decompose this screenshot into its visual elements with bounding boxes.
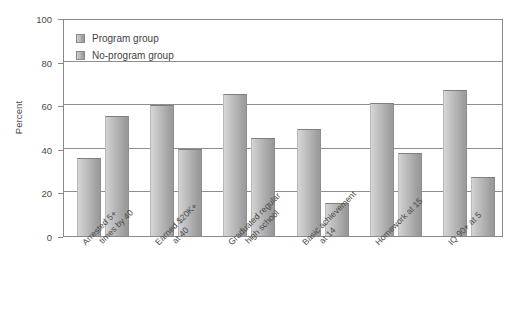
- legend-item-no-program-group: No-program group: [76, 47, 174, 63]
- x-axis-labels: Arrested 5+times by 40Earned $20K+at 40G…: [63, 240, 503, 335]
- y-tick-label: 80: [22, 57, 52, 68]
- y-tick-label: 60: [22, 101, 52, 112]
- bar: [150, 105, 174, 236]
- y-tick-mark: [58, 237, 63, 238]
- bar: [223, 94, 247, 236]
- y-tick-label: 100: [22, 14, 52, 25]
- y-tick-label: 20: [22, 188, 52, 199]
- legend: Program group No-program group: [76, 30, 174, 64]
- bar: [297, 129, 321, 236]
- y-tick-label: 0: [22, 232, 52, 243]
- bar: [443, 90, 467, 236]
- legend-swatch-icon: [76, 51, 85, 60]
- bar-chart: Percent 020406080100 Program group No-pr…: [0, 0, 527, 335]
- legend-item-program-group: Program group: [76, 30, 174, 46]
- bar: [471, 177, 495, 236]
- bar: [370, 103, 394, 236]
- legend-swatch-icon: [76, 34, 85, 43]
- y-tick-label: 40: [22, 144, 52, 155]
- legend-label: Program group: [92, 33, 159, 44]
- legend-label: No-program group: [92, 50, 174, 61]
